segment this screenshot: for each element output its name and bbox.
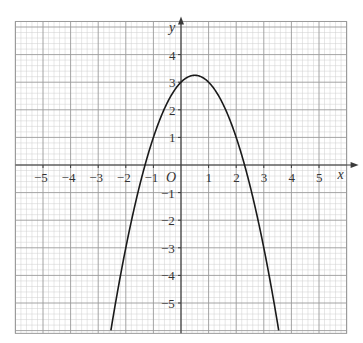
x-axis-arrow-icon — [351, 162, 359, 168]
y-tick-label: −5 — [161, 296, 175, 311]
y-tick-label: 3 — [169, 75, 176, 90]
x-tick-label: −2 — [117, 170, 131, 185]
y-axis-label: y — [167, 20, 176, 35]
y-tick-label: −1 — [161, 186, 175, 201]
tick-labels: −5−4−3−2−112345−5−4−3−2−11234 — [34, 48, 323, 311]
y-tick-label: 1 — [169, 130, 176, 145]
x-tick-label: −4 — [62, 170, 76, 185]
x-tick-label: −1 — [144, 170, 158, 185]
x-axis-label: x — [337, 167, 345, 182]
x-tick-label: 5 — [316, 170, 323, 185]
y-tick-label: 4 — [169, 48, 176, 63]
x-tick-label: 1 — [206, 170, 213, 185]
x-tick-label: 4 — [288, 170, 295, 185]
x-tick-label: 2 — [233, 170, 240, 185]
x-tick-label: −3 — [89, 170, 103, 185]
y-tick-label: −4 — [161, 268, 175, 283]
y-tick-label: 2 — [169, 103, 176, 118]
y-axis-arrow-icon — [178, 16, 184, 24]
parabola-graph: −5−4−3−2−112345−5−4−3−2−11234 x y O — [0, 0, 363, 343]
origin-label: O — [166, 170, 176, 185]
y-tick-label: −2 — [161, 213, 175, 228]
y-tick-label: −3 — [161, 241, 175, 256]
x-tick-label: 3 — [261, 170, 268, 185]
x-tick-label: −5 — [34, 170, 48, 185]
